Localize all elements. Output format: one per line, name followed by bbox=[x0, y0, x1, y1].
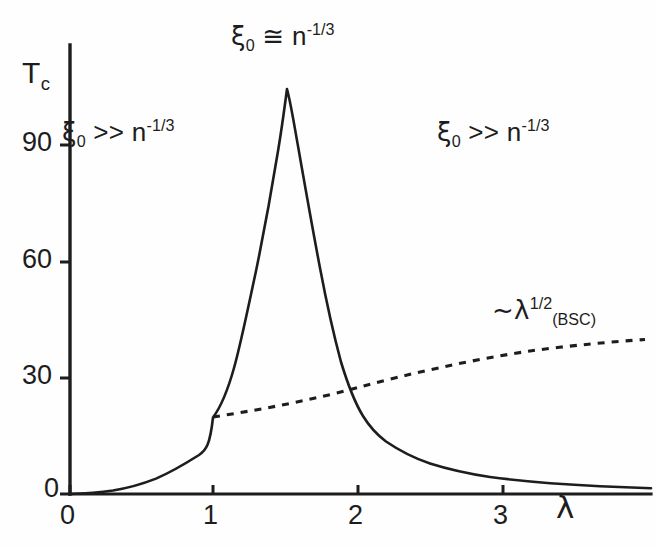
annotation-left-region: ξ0 >> n-1/3 bbox=[62, 116, 174, 151]
xi-subscript: 0 bbox=[246, 36, 255, 54]
lambda-exponent: 1/2 bbox=[530, 294, 552, 312]
xi-symbol: ξ bbox=[62, 117, 77, 147]
x-tick-label-2: 2 bbox=[348, 500, 363, 531]
n-exponent: -1/3 bbox=[147, 116, 175, 134]
relation-symbol: ≅ bbox=[262, 21, 284, 51]
relation-symbol: >> bbox=[468, 117, 499, 147]
n-symbol: n bbox=[132, 117, 147, 147]
xi-subscript: 0 bbox=[77, 132, 86, 150]
n-exponent: -1/3 bbox=[307, 20, 335, 38]
y-axis-label-main: T bbox=[22, 56, 41, 89]
annotation-right-region: ξ0 >> n-1/3 bbox=[437, 116, 549, 151]
annotation-bsc-curve: ~λ1/2(BSC) bbox=[492, 294, 596, 329]
xi-subscript: 0 bbox=[452, 132, 461, 150]
n-symbol: n bbox=[507, 117, 522, 147]
plot-area bbox=[0, 0, 655, 547]
y-tick-label-90: 90 bbox=[22, 127, 52, 158]
bsc-note: (BSC) bbox=[552, 310, 596, 328]
x-tick-label-1: 1 bbox=[203, 500, 218, 531]
bsc-dashed-line bbox=[213, 340, 645, 418]
y-tick-label-0: 0 bbox=[44, 473, 59, 504]
xi-symbol: ξ bbox=[231, 21, 246, 51]
n-symbol: n bbox=[292, 21, 307, 51]
x-axis-label: λ bbox=[556, 489, 575, 525]
x-tick-label-3: 3 bbox=[493, 500, 508, 531]
y-tick-label-30: 30 bbox=[22, 360, 52, 391]
y-axis-label: Tc bbox=[22, 56, 50, 95]
tilde-lambda-symbol: ~λ bbox=[492, 295, 530, 325]
xi-symbol: ξ bbox=[437, 117, 452, 147]
annotation-resonance-region: ξ0 ≅ n-1/3 bbox=[231, 20, 334, 55]
y-tick-label-60: 60 bbox=[22, 244, 52, 275]
n-exponent: -1/3 bbox=[522, 116, 550, 134]
x-tick-label-0: 0 bbox=[60, 500, 75, 531]
figure-container: Tc λ 90 60 30 0 0 1 2 3 ξ0 ≅ n-1/3 ξ0 >>… bbox=[0, 0, 655, 547]
relation-symbol: >> bbox=[93, 117, 124, 147]
y-axis-label-subscript: c bbox=[41, 73, 50, 94]
